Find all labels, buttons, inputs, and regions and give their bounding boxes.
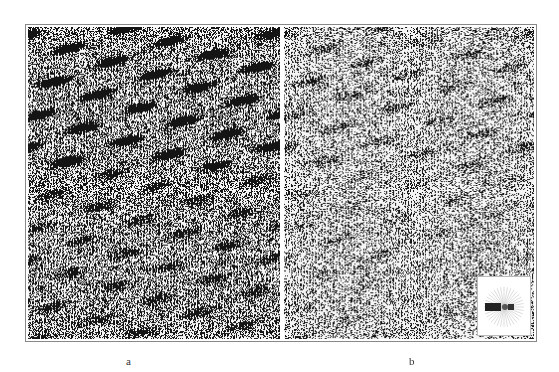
figure-frame xyxy=(25,24,537,342)
fan-plot-icon xyxy=(478,277,530,335)
seismic-panel-a xyxy=(28,27,280,339)
polar-fan-inset xyxy=(477,276,531,336)
panel-label-b: b xyxy=(409,355,415,367)
panel-label-a: a xyxy=(126,355,131,367)
seismic-panel-b xyxy=(284,27,534,339)
